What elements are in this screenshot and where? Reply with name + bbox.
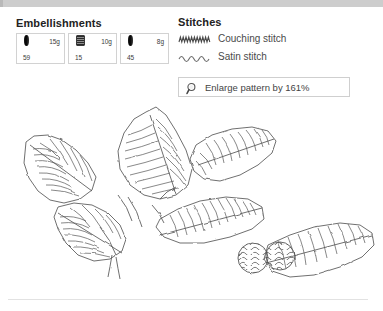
stitch-legend-row: Satin stitch bbox=[178, 49, 286, 63]
embellishment-item[interactable]: 8g 45 bbox=[120, 33, 169, 64]
stitch-legend-row: Couching stitch bbox=[178, 31, 286, 45]
embellishment-item[interactable]: 15g 59 bbox=[16, 33, 65, 64]
pattern-baseline-rule bbox=[8, 299, 368, 300]
stitch-legend-label: Satin stitch bbox=[218, 51, 267, 62]
stitches-title: Stitches bbox=[178, 16, 222, 28]
holly-branch-embroidery-pattern bbox=[0, 95, 383, 311]
embellishments-title: Embellishments bbox=[16, 17, 102, 29]
embellishment-weight: 15g bbox=[49, 38, 60, 45]
embellishment-code: 45 bbox=[127, 54, 134, 61]
stitches-legend: Couching stitch Satin stitch bbox=[178, 31, 286, 67]
embellishments-list: 15g 59 10g 15 8g 45 bbox=[16, 33, 169, 64]
magnifier-icon bbox=[186, 81, 199, 94]
spool-icon bbox=[76, 35, 85, 46]
stitch-legend-label: Couching stitch bbox=[218, 33, 286, 44]
bead-icon bbox=[24, 35, 29, 46]
satin-stitch-icon bbox=[178, 50, 212, 62]
page-content: Embellishments 15g 59 10g 15 8g 45 Stitc… bbox=[0, 7, 383, 311]
embellishment-code: 15 bbox=[75, 54, 82, 61]
top-bar-edge bbox=[0, 0, 3, 7]
embellishment-weight: 8g bbox=[157, 38, 164, 45]
window-top-bar bbox=[0, 0, 383, 7]
enlarge-pattern-button[interactable]: Enlarge pattern by 161% bbox=[178, 77, 350, 97]
embellishment-item[interactable]: 10g 15 bbox=[68, 33, 117, 64]
couching-stitch-icon bbox=[178, 32, 212, 44]
embellishment-weight: 10g bbox=[101, 38, 112, 45]
bead-icon bbox=[128, 35, 133, 46]
enlarge-pattern-label: Enlarge pattern by 161% bbox=[205, 82, 310, 93]
embellishment-code: 59 bbox=[23, 54, 30, 61]
